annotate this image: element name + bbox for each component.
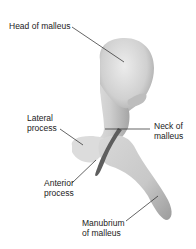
label-anterior-line2: process: [44, 188, 74, 198]
label-lateral-process: Lateral process: [27, 113, 57, 133]
label-neck-of-malleus: Neck of malleus: [154, 121, 183, 141]
leader-anterior: [72, 160, 96, 183]
malleus-figure: Head of malleus Lateral process Neck of …: [0, 0, 196, 249]
label-head-of-malleus: Head of malleus: [9, 21, 70, 31]
leader-lateral: [60, 129, 83, 145]
label-lateral-line2: process: [27, 123, 57, 133]
label-anterior-line1: Anterior: [44, 178, 74, 188]
label-head-text: Head of malleus: [9, 21, 70, 31]
label-lateral-line1: Lateral: [27, 113, 57, 123]
label-anterior-process: Anterior process: [44, 178, 74, 198]
label-neck-line1: Neck of: [154, 121, 183, 131]
leader-manubrium: [126, 196, 158, 221]
label-manubrium-line1: Manubrium: [82, 218, 125, 228]
label-manubrium-line2: of malleus: [82, 228, 125, 238]
label-manubrium-of-malleus: Manubrium of malleus: [82, 218, 125, 238]
label-neck-line2: malleus: [154, 131, 183, 141]
